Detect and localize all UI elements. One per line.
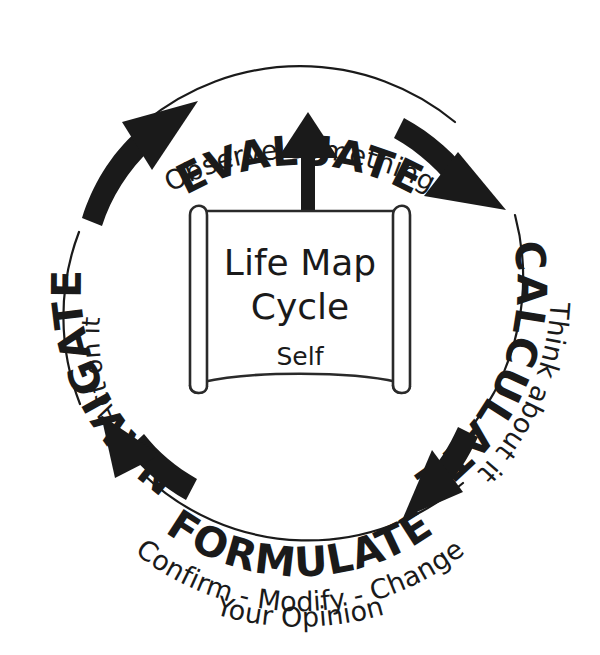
scroll-title-line1: Life Map: [224, 242, 376, 283]
scroll-subtitle: Self: [277, 342, 325, 371]
divider-arc-evaluate: [145, 66, 455, 122]
life-map-cycle-diagram: Life Map Cycle Self EVALUATE Observe Som…: [0, 0, 600, 655]
cycle-svg-canvas: Life Map Cycle Self EVALUATE Observe Som…: [0, 0, 600, 655]
center-scroll: Life Map Cycle Self: [190, 206, 410, 393]
scroll-title-line2: Cycle: [251, 286, 349, 327]
